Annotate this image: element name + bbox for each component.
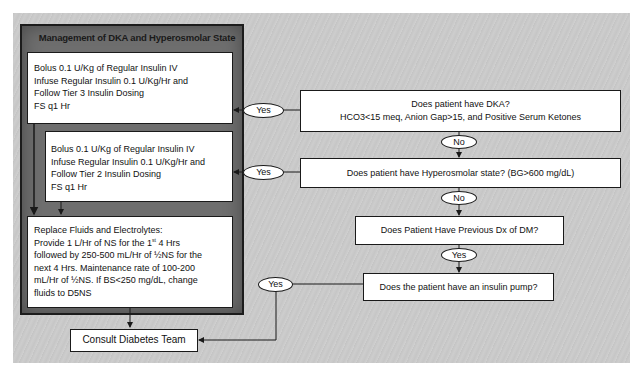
insulin-pump-question: Does the patient have an insulin pump? [364, 281, 553, 294]
tier3-line: Infuse Regular Insulin 0.1 U/Kg/Hr and [34, 75, 226, 88]
tier2-insulin-box: Bolus 0.1 U/Kg of Regular Insulin IV Inf… [45, 131, 233, 202]
yes-dka-oval: Yes [243, 103, 284, 118]
tier3-insulin-box: Bolus 0.1 U/Kg of Regular Insulin IV Inf… [27, 52, 233, 124]
fluids-line: followed by 250-500 mL/Hr of ½NS for the [34, 249, 226, 262]
dka-question-box: Does patient have DKA? HCO3<15 meq, Anio… [300, 90, 621, 132]
tier2-line: Bolus 0.1 U/Kg of Regular Insulin IV [51, 143, 227, 156]
tier3-line: FS q1 Hr [34, 100, 226, 113]
previous-dx-question-box: Does Patient Have Previous Dx of DM? [355, 216, 564, 245]
no-dka-oval: No [441, 135, 477, 149]
dka-criteria: HCO3<15 meq, Anion Gap>15, and Positive … [301, 111, 620, 124]
yes-hyperosmolar-oval: Yes [243, 165, 284, 180]
no-hyperosmolar-oval: No [441, 191, 477, 205]
tier2-line: Follow Tier 2 Insulin Dosing [51, 168, 227, 181]
fluids-line: next 4 Hrs. Maintenance rate of 100-200 [34, 262, 226, 275]
previous-dx-question: Does Patient Have Previous Dx of DM? [356, 224, 563, 237]
insulin-pump-question-box: Does the patient have an insulin pump? [363, 273, 554, 301]
fluids-text: Provide 1 L/Hr of NS for the 1 [34, 238, 152, 248]
fluids-text: 4 Hrs [156, 238, 180, 248]
tier2-line: Infuse Regular Insulin 0.1 U/Kg/Hr and [51, 156, 227, 169]
fluids-line: Replace Fluids and Electrolytes: [34, 224, 226, 237]
yes-pump-oval: Yes [258, 277, 293, 292]
fluids-line: mL/Hr of ½NS. If BS<250 mg/dL, change [34, 274, 226, 287]
hyperosmolar-question-box: Does patient have Hyperosmolar state? (B… [300, 158, 621, 188]
consult-label: Consult Diabetes Team [71, 334, 197, 347]
fluids-line: Provide 1 L/Hr of NS for the 1st 4 Hrs [34, 237, 226, 250]
replace-fluids-box: Replace Fluids and Electrolytes: Provide… [27, 216, 233, 308]
yes-previous-dx-oval: Yes [441, 248, 477, 262]
tier3-line: Follow Tier 3 Insulin Dosing [34, 87, 226, 100]
consult-diabetes-team-box: Consult Diabetes Team [70, 329, 198, 352]
fluids-line: fluids to D5NS [34, 287, 226, 300]
dka-question: Does patient have DKA? [301, 98, 620, 111]
tier2-line: FS q1 Hr [51, 181, 227, 194]
tier3-line: Bolus 0.1 U/Kg of Regular Insulin IV [34, 62, 226, 75]
hyperosmolar-question: Does patient have Hyperosmolar state? (B… [301, 167, 620, 180]
